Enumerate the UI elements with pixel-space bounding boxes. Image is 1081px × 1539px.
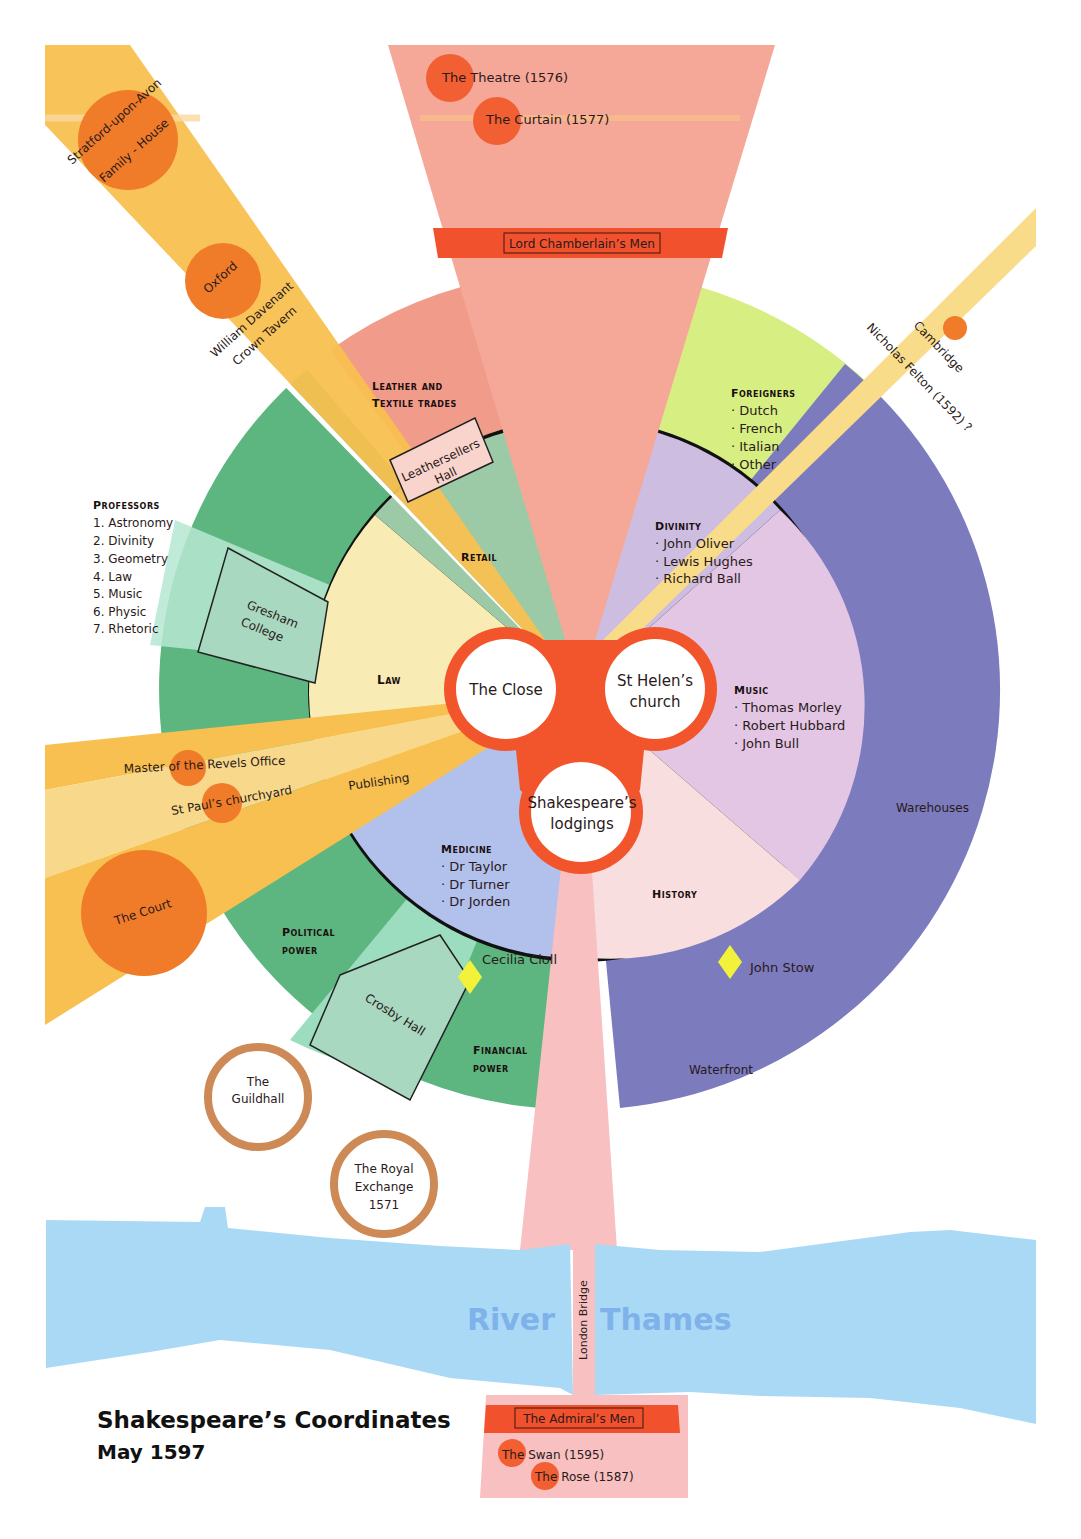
shakespeare-coordinates-diagram: The Theatre (1576) The Curtain (1577) Lo… [0, 0, 1081, 1539]
foreigners-item: · French [731, 421, 782, 436]
music-item: · Thomas Morley [734, 700, 842, 715]
warehouses-label: Warehouses [896, 801, 969, 815]
foreigners-item: · Dutch [731, 403, 778, 418]
professors-item: 4. Law [93, 570, 132, 584]
music-item: · John Bull [734, 736, 799, 751]
river-label-left: River [467, 1302, 555, 1337]
venue-the-curtain: The Curtain (1577) [485, 112, 609, 127]
st-helens-label-1: St Helen’s [617, 672, 693, 690]
river-label-right: Thames [600, 1302, 732, 1337]
lodgings-label-2: lodgings [550, 815, 614, 833]
venue-the-theatre: The Theatre (1576) [441, 70, 568, 85]
divinity-item: · Lewis Hughes [655, 554, 753, 569]
cecilia-cioll-label: Cecilia Cioll [482, 952, 557, 967]
foreigners-heading: Foreigners [731, 387, 796, 400]
john-stow-label: John Stow [749, 960, 815, 975]
guildhall-label-1: The [246, 1075, 269, 1089]
professors-item: 3. Geometry [93, 552, 168, 566]
page-title: Shakespeare’s Coordinates [97, 1407, 451, 1433]
professors-item: 2. Divinity [93, 534, 154, 548]
page-subtitle-date: May 1597 [97, 1440, 205, 1464]
guildhall-label-2: Guildhall [232, 1092, 285, 1106]
professors-item: 1. Astronomy [93, 516, 173, 530]
music-heading: Music [734, 684, 769, 697]
the-close-label: The Close [468, 681, 543, 699]
professors-item: 6. Physic [93, 605, 146, 619]
exchange-label-3: 1571 [369, 1198, 400, 1212]
political-heading-2: power [282, 944, 318, 957]
admirals-men-label: The Admiral’s Men [522, 1412, 635, 1426]
divinity-heading: Divinity [655, 520, 701, 533]
medicine-item: · Dr Taylor [441, 859, 508, 874]
lord-chamberlains-men-label: Lord Chamberlain’s Men [509, 237, 655, 251]
cambridge-circle [943, 316, 967, 340]
london-bridge-label: London Bridge [577, 1280, 590, 1360]
divinity-item: · Richard Ball [655, 571, 741, 586]
political-heading-1: Political [282, 926, 335, 939]
medicine-item: · Dr Jorden [441, 894, 510, 909]
retail-heading: Retail [461, 551, 497, 564]
professors-item: 7. Rhetoric [93, 622, 159, 636]
foreigners-item: · Other [731, 457, 777, 472]
exchange-label-2: Exchange [355, 1180, 414, 1194]
history-heading: History [652, 888, 697, 901]
st-helens-label-2: church [630, 693, 681, 711]
professors-heading: Professors [93, 499, 160, 512]
venue-the-swan: The Swan (1595) [501, 1448, 604, 1462]
leather-heading-2: Textile trades [372, 397, 457, 410]
financial-heading-1: Financial [473, 1044, 528, 1057]
waterfront-label: Waterfront [689, 1063, 753, 1077]
professors-item: 5. Music [93, 587, 142, 601]
exchange-label-1: The Royal [353, 1162, 413, 1176]
divinity-item: · John Oliver [655, 536, 735, 551]
medicine-item: · Dr Turner [441, 877, 510, 892]
leather-heading-1: Leather and [372, 380, 443, 393]
venue-the-rose: The Rose (1587) [534, 1470, 634, 1484]
foreigners-item: · Italian [731, 439, 780, 454]
law-heading: Law [377, 673, 401, 687]
music-item: · Robert Hubbard [734, 718, 845, 733]
medicine-heading: Medicine [441, 843, 492, 856]
financial-heading-2: power [473, 1062, 509, 1075]
lodgings-label-1: Shakespeare’s [527, 794, 636, 812]
